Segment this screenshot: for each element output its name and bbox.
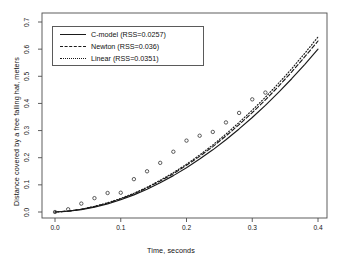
chart-figure: Time, seconds Distance covered by a free… bbox=[0, 0, 342, 263]
legend-key-solid bbox=[60, 34, 86, 37]
legend-label-c-model: C-model (RSS=0.0257) bbox=[91, 29, 166, 41]
data-point bbox=[251, 98, 254, 101]
data-point bbox=[80, 202, 83, 205]
y-tick-label: 0.4 bbox=[22, 93, 31, 113]
data-point bbox=[119, 191, 122, 194]
y-tick-label: 0.2 bbox=[22, 148, 31, 168]
y-tick-label: 0.7 bbox=[22, 12, 31, 32]
legend-key-dashed bbox=[60, 46, 86, 49]
data-point bbox=[198, 134, 201, 137]
observed-points bbox=[53, 91, 267, 214]
x-tick-label: 0.4 bbox=[304, 224, 332, 231]
data-point bbox=[93, 196, 96, 199]
x-axis-title: Time, seconds bbox=[0, 246, 342, 255]
data-point bbox=[66, 208, 69, 211]
data-point bbox=[159, 161, 162, 164]
legend-item-linear: Linear (RSS=0.0351) bbox=[53, 53, 205, 65]
y-tick-label: 0.0 bbox=[22, 202, 31, 222]
y-tick-label: 0.3 bbox=[22, 121, 31, 141]
curve-c-model bbox=[55, 49, 318, 212]
data-point bbox=[211, 130, 214, 133]
legend: C-model (RSS=0.0257) Newton (RSS=0.036) … bbox=[52, 26, 204, 66]
data-point bbox=[172, 150, 175, 153]
data-point bbox=[264, 91, 267, 94]
legend-label-linear: Linear (RSS=0.0351) bbox=[91, 53, 159, 65]
data-point bbox=[106, 191, 109, 194]
data-point bbox=[145, 170, 148, 173]
data-point bbox=[224, 121, 227, 124]
data-point bbox=[237, 111, 240, 114]
legend-item-c-model: C-model (RSS=0.0257) bbox=[53, 29, 205, 41]
x-tick-label: 0.3 bbox=[238, 224, 266, 231]
x-tick-label: 0.2 bbox=[173, 224, 201, 231]
curve-newton bbox=[55, 41, 318, 212]
legend-label-newton: Newton (RSS=0.036) bbox=[91, 41, 159, 53]
x-tick-label: 0.0 bbox=[41, 224, 69, 231]
y-tick-label: 0.6 bbox=[22, 39, 31, 59]
data-point bbox=[185, 139, 188, 142]
y-tick-label: 0.5 bbox=[22, 66, 31, 86]
legend-item-newton: Newton (RSS=0.036) bbox=[53, 41, 205, 53]
data-point bbox=[132, 177, 135, 180]
y-tick-label: 0.1 bbox=[22, 175, 31, 195]
legend-key-dotted bbox=[60, 58, 86, 61]
x-tick-label: 0.1 bbox=[107, 224, 135, 231]
